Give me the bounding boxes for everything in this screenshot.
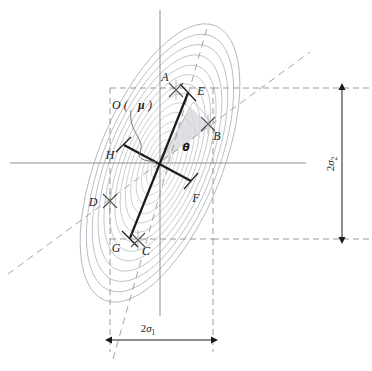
dim-h-index: 1 bbox=[152, 328, 156, 337]
svg-text:2σ2: 2σ2 bbox=[324, 156, 339, 171]
dim-v-index: 2 bbox=[330, 156, 339, 160]
dimension-label-vertical: 2σ2 bbox=[324, 156, 339, 171]
gaussian-ellipse-figure: A B C D E F G H θ O ( μ ) 2σ1 2σ2 bbox=[0, 0, 372, 371]
figure-container: A B C D E F G H θ O ( μ ) 2σ1 2σ2 bbox=[0, 0, 372, 371]
point-label-F: F bbox=[191, 191, 200, 205]
center-label-group: O ( μ ) bbox=[112, 98, 152, 112]
center-label-O: O ( bbox=[112, 98, 129, 112]
dimension-label-horizontal: 2σ1 bbox=[141, 322, 156, 337]
point-label-D: D bbox=[88, 195, 98, 209]
point-label-B: B bbox=[213, 129, 221, 143]
point-label-G: G bbox=[112, 241, 121, 255]
point-label-C: C bbox=[142, 244, 151, 258]
major-principal-axis bbox=[130, 93, 188, 238]
svg-text:2σ1: 2σ1 bbox=[141, 322, 156, 337]
point-label-H: H bbox=[105, 148, 116, 162]
point-label-A: A bbox=[160, 70, 169, 84]
point-label-E: E bbox=[196, 84, 205, 98]
center-label-mu: μ bbox=[137, 98, 145, 112]
angle-label-theta: θ bbox=[182, 141, 189, 153]
center-label-paren-close: ) bbox=[147, 98, 152, 112]
